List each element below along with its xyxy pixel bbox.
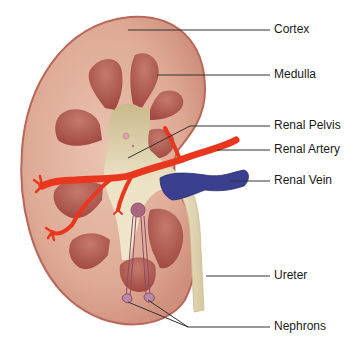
label-cortex: Cortex — [274, 22, 309, 36]
kidney-diagram: Cortex Medulla Renal Pelvis Renal Artery… — [0, 0, 357, 346]
label-nephrons: Nephrons — [274, 319, 326, 333]
label-renal-pelvis: Renal Pelvis — [274, 118, 341, 132]
label-medulla: Medulla — [274, 67, 316, 81]
label-ureter: Ureter — [274, 268, 307, 282]
label-renal-artery: Renal Artery — [274, 142, 340, 156]
renal-vein-vessel — [160, 170, 249, 200]
label-renal-vein: Renal Vein — [274, 173, 332, 187]
